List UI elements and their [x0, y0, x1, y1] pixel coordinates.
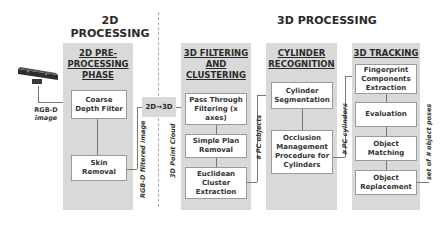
connector-skin-out — [127, 169, 137, 170]
step-label: Cylinder Segmentation — [273, 87, 331, 105]
panel-title-line: 3D FILTERING — [181, 48, 251, 59]
step-evaluation[interactable]: Evaluation — [355, 102, 417, 127]
converter-2d-to-3d: 2D→3D — [142, 97, 176, 117]
step-label: Object Matching — [357, 140, 415, 158]
panel-2d-preprocessing: 2D PRE- PROCESSING PHASE Coarse Depth Fi… — [63, 43, 133, 210]
arrow-down — [216, 125, 217, 134]
input-label: RGB-D image — [28, 106, 64, 122]
step-label: Coarse Depth Filter — [73, 96, 125, 114]
step-label: Fingerprint Components Extraction — [357, 66, 415, 93]
arrow-down — [216, 158, 217, 167]
panel-title-line: RECOGNITION — [266, 59, 337, 70]
edge-label-filtered-image: RGB-D filtered image — [139, 121, 147, 199]
step-label: Pass Through Filtering (x axes) — [187, 96, 245, 123]
arrow-down — [302, 109, 303, 130]
step-label: Evaluation — [365, 110, 407, 119]
step-pass-through-filtering[interactable]: Pass Through Filtering (x axes) — [185, 93, 247, 125]
connector-kinect-down — [38, 86, 39, 102]
arrow-down — [386, 94, 387, 102]
panel-title-line: 2D PRE- — [63, 48, 133, 59]
panel-title-line: AND — [181, 59, 251, 70]
panel-title-line: PHASE — [63, 70, 133, 81]
kinect-sensor-icon — [16, 65, 60, 87]
panel-title-line: 3D TRACKING — [352, 48, 420, 59]
panel-3d-filtering-clustering: 3D FILTERING AND CLUSTERING Pass Through… — [181, 43, 251, 210]
step-label: Euclidean Cluster Extraction — [187, 170, 245, 197]
panel-title: 3D FILTERING AND CLUSTERING — [181, 48, 251, 81]
panel-cylinder-recognition: CYLINDER RECOGNITION Cylinder Segmentati… — [266, 43, 337, 210]
panel-3d-tracking: 3D TRACKING Fingerprint Components Extra… — [352, 43, 420, 210]
connector-filtered-up — [137, 107, 138, 169]
arrow-down — [386, 161, 387, 170]
panel-title-line: CYLINDER — [266, 48, 337, 59]
section-title-2d: 2D PROCESSING — [70, 14, 150, 40]
edge-label-object-poses: set of # object poses — [425, 104, 433, 180]
step-label: Occlusion Management Procedure for Cylin… — [273, 134, 331, 170]
panel-title: CYLINDER RECOGNITION — [266, 48, 337, 70]
edge-label-pc-cylinders: # PC cylinders — [341, 103, 349, 155]
panel-title: 3D TRACKING — [352, 48, 420, 59]
connector-output — [417, 182, 429, 183]
panel-title-line: PROCESSING — [63, 59, 133, 70]
edge-label-point-cloud: 3D Point Cloud — [169, 124, 177, 178]
step-object-matching[interactable]: Object Matching — [355, 136, 417, 161]
connector-occlusion-out — [333, 157, 345, 158]
section-title-3d: 3D PROCESSING — [272, 14, 382, 27]
section-title-2d-text: 2D PROCESSING — [70, 14, 150, 40]
step-skin-removal[interactable]: Skin Removal — [71, 155, 127, 181]
step-label: Simple Plan Removal — [187, 137, 245, 155]
connector-euclidean-out — [247, 182, 257, 183]
step-fingerprint-components-extraction[interactable]: Fingerprint Components Extraction — [355, 64, 417, 94]
step-label: Object Replacement — [357, 174, 415, 192]
edge-label-pc-objects: # PC objects — [255, 115, 263, 160]
step-euclidean-cluster-extraction[interactable]: Euclidean Cluster Extraction — [185, 167, 247, 199]
step-coarse-depth-filter[interactable]: Coarse Depth Filter — [71, 90, 127, 119]
step-object-replacement[interactable]: Object Replacement — [355, 170, 417, 195]
input-label-line1: RGB-D — [28, 106, 64, 114]
step-cylinder-segmentation[interactable]: Cylinder Segmentation — [271, 82, 333, 109]
step-occlusion-management[interactable]: Occlusion Management Procedure for Cylin… — [271, 130, 333, 174]
step-label: Skin Removal — [73, 159, 125, 177]
panel-title-line: CLUSTERING — [181, 70, 251, 81]
converter-label: 2D→3D — [145, 103, 172, 111]
arrow-down — [97, 119, 98, 155]
step-simple-plan-removal[interactable]: Simple Plan Removal — [185, 134, 247, 158]
input-label-line2: image — [28, 114, 64, 122]
arrow-down — [386, 127, 387, 136]
section-title-3d-text: 3D PROCESSING — [272, 14, 382, 27]
panel-title: 2D PRE- PROCESSING PHASE — [63, 48, 133, 81]
